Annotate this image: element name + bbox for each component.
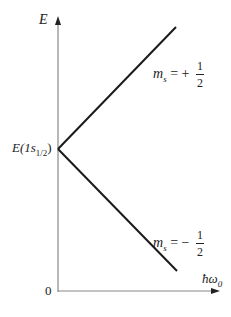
ms-plus-m: m [153, 66, 163, 81]
ms-plus-frac-den: 2 [197, 77, 203, 89]
x-axis-label-sub: 0 [218, 279, 223, 289]
origin-label: 0 [45, 284, 52, 297]
vertex-label-sub: 1/2 [36, 148, 48, 158]
vertex-label: E(1s1/2) [12, 141, 52, 158]
diagram-canvas [0, 0, 231, 317]
vertex-label-suffix: ) [47, 140, 51, 155]
ms-minus-frac-den: 2 [197, 246, 203, 258]
x-axis-label-base: ħω [202, 271, 218, 286]
x-axis-arrow-icon [211, 288, 220, 294]
vertex-label-prefix: E(1 [12, 140, 31, 155]
x-axis-label: ħω0 [202, 272, 222, 289]
ms-minus-frac-num: 1 [197, 229, 203, 241]
ms-plus-eq: = + [167, 66, 190, 81]
label-ms-minus-half: ms = − 1 2 [153, 229, 204, 258]
ms-minus-m: m [153, 235, 163, 250]
y-axis-arrow-icon [55, 16, 61, 25]
ms-minus-fraction: 1 2 [196, 229, 204, 258]
label-ms-plus-half: ms = + 1 2 [153, 60, 204, 89]
ms-plus-fraction: 1 2 [196, 60, 204, 89]
ms-plus-frac-num: 1 [197, 60, 203, 72]
y-axis-label: E [39, 13, 48, 27]
ms-minus-eq: = − [167, 235, 190, 250]
